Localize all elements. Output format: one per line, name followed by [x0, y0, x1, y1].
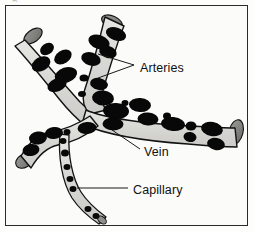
- blood-cell: [64, 164, 71, 170]
- blood-vessel-diagram: Arteries Vein Capillary: [6, 6, 247, 225]
- blood-cell: [64, 129, 71, 135]
- figure-frame-border: Arteries Vein Capillary: [5, 5, 248, 226]
- capillary-tube: [60, 134, 107, 224]
- blood-cell: [129, 97, 152, 113]
- blood-cell: [38, 40, 57, 58]
- label-capillary: Capillary: [133, 183, 183, 197]
- label-arteries: Arteries: [140, 61, 184, 75]
- blood-cell: [51, 46, 74, 67]
- blood-cell: [70, 186, 77, 192]
- blood-cell: [93, 213, 100, 219]
- blood-cell: [80, 75, 89, 82]
- blood-cell: [186, 122, 197, 131]
- label-vein: Vein: [144, 145, 169, 159]
- blood-cell: [85, 206, 92, 212]
- blood-cell: [61, 150, 69, 157]
- blood-cell: [67, 176, 74, 182]
- page-bleed-text-fragment: g: [12, 0, 23, 2]
- figure-root: g: [0, 0, 254, 232]
- blood-cell: [78, 91, 86, 97]
- blood-cell: [60, 138, 67, 144]
